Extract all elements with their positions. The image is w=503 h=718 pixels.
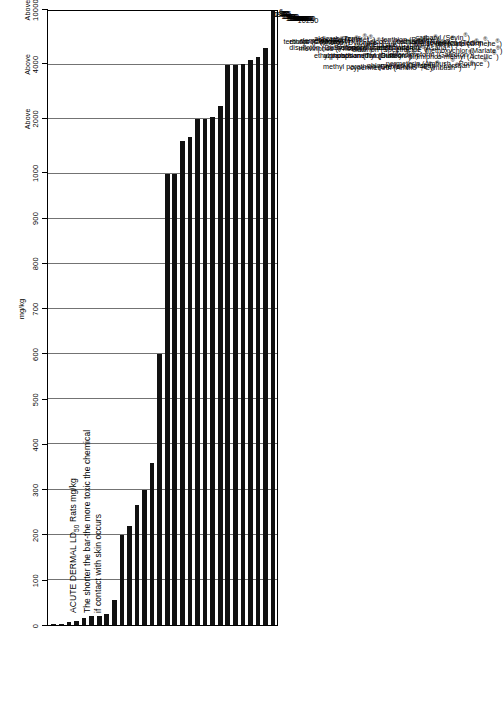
axis-tick-label: 900 — [32, 212, 40, 225]
bar-row — [95, 11, 103, 625]
bar-row — [65, 11, 73, 625]
value-row: 10250 — [307, 10, 308, 626]
bar — [241, 64, 246, 625]
bar — [51, 624, 56, 625]
bar-row — [216, 11, 224, 625]
bar-row — [118, 11, 126, 625]
bar — [248, 60, 253, 625]
bar — [135, 505, 140, 625]
bar — [120, 535, 125, 625]
x-axis: 01002003004005006007008009001000Above200… — [6, 10, 48, 626]
bar — [89, 616, 94, 625]
axis-tick-label: 200 — [32, 529, 40, 542]
bar-row — [141, 11, 149, 625]
bar-row — [194, 11, 202, 625]
bar-row — [186, 11, 194, 625]
axis-tick-label: 0 — [32, 624, 40, 628]
bar-row — [103, 11, 111, 625]
axis-tick-above: Above — [24, 0, 32, 21]
category-label-column: terbufos (Counter®)ethoprop (Mocap®)disu… — [312, 10, 472, 626]
bar-row — [163, 11, 171, 625]
axis-tick-label: 600 — [32, 348, 40, 361]
bar-row — [239, 11, 247, 625]
axis-tick-label: 100 — [32, 574, 40, 587]
bar-row — [262, 11, 270, 625]
bar-row — [201, 11, 209, 625]
bar — [97, 616, 102, 625]
bar — [218, 106, 223, 625]
bar — [188, 137, 193, 625]
bar — [172, 174, 177, 625]
bar-row — [209, 11, 217, 625]
bar-row — [88, 11, 96, 625]
bar — [59, 624, 64, 625]
bar — [157, 354, 162, 625]
bar-row — [80, 11, 88, 625]
bar — [203, 119, 208, 625]
axis-tick-label: 400 — [32, 438, 40, 451]
axis-tick-label: 500 — [32, 393, 40, 406]
bar — [256, 57, 261, 625]
bar-series — [48, 11, 277, 625]
bar — [180, 141, 185, 625]
bar — [104, 614, 109, 625]
bar — [225, 65, 230, 625]
category-label: acephate (Orthene®) — [436, 38, 502, 49]
bar-row — [232, 11, 240, 625]
axis-tick-label: 800 — [32, 257, 40, 270]
bar — [142, 490, 147, 625]
axis-tick-label: 700 — [32, 303, 40, 316]
axis-tick-label: Above4000 — [24, 54, 40, 75]
bar — [150, 463, 155, 625]
bar — [263, 48, 268, 625]
bar-row — [133, 11, 141, 625]
bar — [127, 526, 132, 625]
bar — [210, 117, 215, 625]
bar-row — [269, 11, 277, 625]
value-label-column: 1.12.468.2162020255520022026730035960010… — [278, 10, 308, 626]
bar-row — [73, 11, 81, 625]
bar — [67, 622, 72, 625]
bar-row — [179, 11, 187, 625]
bar — [74, 621, 79, 625]
axis-tick-label: 300 — [32, 484, 40, 497]
bar-row — [58, 11, 66, 625]
axis-tick-label: 1000 — [32, 165, 40, 183]
plot-area: ACUTE DERMAL LD50 Rats mg/kg The shorter… — [48, 10, 278, 626]
axis-tick-above: Above — [24, 108, 32, 129]
axis-tick-label: Above10000 — [24, 0, 40, 21]
bar-row — [50, 11, 58, 625]
bar-row — [156, 11, 164, 625]
bar — [112, 600, 117, 625]
bar-row — [254, 11, 262, 625]
bar-row — [126, 11, 134, 625]
bar — [271, 11, 276, 625]
category-row: acephate (Orthene®) — [467, 10, 472, 626]
bar-row — [247, 11, 255, 625]
bar-row — [224, 11, 232, 625]
bar — [165, 174, 170, 625]
bar-row — [148, 11, 156, 625]
bar-row — [171, 11, 179, 625]
bar-row — [111, 11, 119, 625]
bar — [233, 65, 238, 625]
axis-tick-label: Above2000 — [24, 108, 40, 129]
bar — [195, 119, 200, 625]
axis-tick-above: Above — [24, 54, 32, 75]
bar — [82, 618, 87, 625]
axis-unit-label: mg/kg — [17, 299, 26, 319]
